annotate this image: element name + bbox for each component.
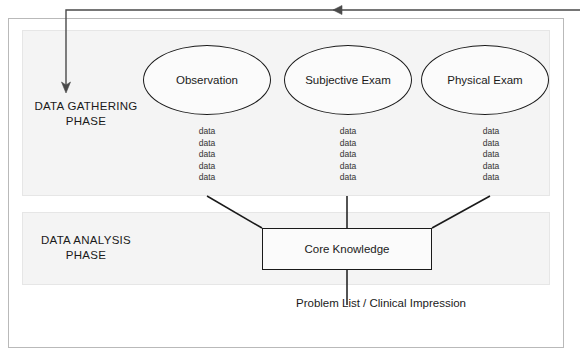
data-item: data <box>318 149 378 161</box>
node-physical-exam-label: Physical Exam <box>447 74 522 86</box>
node-subjective-exam[interactable]: Subjective Exam <box>284 45 412 115</box>
problem-list-caption: Problem List / Clinical Impression <box>296 297 466 309</box>
data-item: data <box>461 138 521 150</box>
phase-label-line2: PHASE <box>22 248 150 263</box>
data-item: data <box>318 161 378 173</box>
node-core-knowledge-label: Core Knowledge <box>304 243 389 255</box>
data-analysis-phase-label: DATA ANALYSIS PHASE <box>22 233 150 263</box>
diagram-canvas: DATA GATHERING PHASE DATA ANALYSIS PHASE… <box>0 0 580 358</box>
node-observation[interactable]: Observation <box>143 45 271 115</box>
data-item: data <box>177 172 237 184</box>
data-item: data <box>318 126 378 138</box>
data-item: data <box>461 161 521 173</box>
data-list-physical-exam: data data data data data <box>461 126 521 184</box>
data-item: data <box>177 138 237 150</box>
data-item: data <box>461 172 521 184</box>
node-subjective-exam-label: Subjective Exam <box>305 74 391 86</box>
data-item: data <box>177 149 237 161</box>
data-item: data <box>318 172 378 184</box>
data-item: data <box>177 126 237 138</box>
data-item: data <box>461 126 521 138</box>
phase-label-line1: DATA GATHERING <box>34 100 137 112</box>
node-physical-exam[interactable]: Physical Exam <box>421 45 549 115</box>
data-item: data <box>461 149 521 161</box>
phase-label-line2: PHASE <box>22 114 150 129</box>
phase-label-line1: DATA ANALYSIS <box>41 234 131 246</box>
data-list-subjective-exam: data data data data data <box>318 126 378 184</box>
data-gathering-phase-label: DATA GATHERING PHASE <box>22 99 150 129</box>
data-item: data <box>177 161 237 173</box>
data-list-observation: data data data data data <box>177 126 237 184</box>
data-item: data <box>318 138 378 150</box>
node-observation-label: Observation <box>176 74 238 86</box>
node-core-knowledge[interactable]: Core Knowledge <box>262 228 432 270</box>
